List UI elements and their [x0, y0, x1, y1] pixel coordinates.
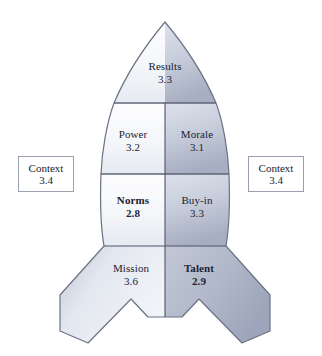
- context-left-label: Context: [29, 162, 64, 175]
- context-left-score: 3.4: [39, 174, 53, 187]
- context-right-label: Context: [259, 162, 294, 175]
- context-right-score: 3.4: [269, 174, 283, 187]
- segment-results: [114, 22, 216, 103]
- context-box-left: Context 3.4: [18, 156, 74, 192]
- rocket-diagram: Results 3.3 Power 3.2 Morale 3.1 Norms 2…: [0, 0, 322, 356]
- context-box-right: Context 3.4: [248, 156, 304, 192]
